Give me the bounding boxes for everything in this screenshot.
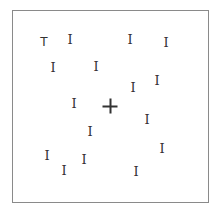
fixation-cross-icon xyxy=(103,99,118,114)
distractor-letter-i: I xyxy=(71,97,76,110)
distractor-letter-i: I xyxy=(144,113,149,126)
distractor-letter-i: I xyxy=(61,164,66,177)
distractor-letter-i: I xyxy=(67,33,72,46)
distractor-letter-i: I xyxy=(133,165,138,178)
distractor-letter-i: I xyxy=(159,142,164,155)
distractor-letter-i: I xyxy=(50,61,55,74)
distractor-letter-i: I xyxy=(154,74,159,87)
distractor-letter-i: I xyxy=(127,33,132,46)
distractor-letter-i: I xyxy=(44,149,49,162)
distractor-letter-i: I xyxy=(81,153,86,166)
distractor-letter-i: I xyxy=(130,81,135,94)
target-letter-t: T xyxy=(40,36,47,49)
distractor-letter-i: I xyxy=(93,60,98,73)
distractor-letter-i: I xyxy=(87,125,92,138)
distractor-letter-i: I xyxy=(163,36,168,49)
